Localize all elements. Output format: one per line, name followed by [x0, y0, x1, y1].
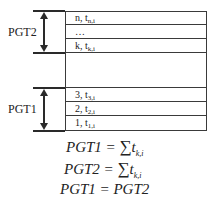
row-text: n, t [75, 12, 88, 23]
row-subscript: k,i [88, 45, 95, 53]
formula-pgt1: PGT1 = ∑tk,i [66, 137, 144, 158]
row-subscript: 1,i [88, 122, 95, 130]
sum-icon: ∑ [117, 159, 129, 178]
pgt2-arrow-up-icon [40, 12, 48, 19]
formula-subscript: k,i [136, 149, 144, 158]
row-text: 2, t [75, 103, 88, 114]
row-text: 1, t [75, 117, 88, 128]
stack-row-ellipsis: … [65, 25, 207, 39]
formula-subscript: k,i [134, 171, 142, 180]
stack-row-n: n, tn,i [65, 11, 207, 25]
row-subscript: n,i [88, 17, 95, 25]
pgt2-bottom-line [33, 52, 65, 54]
stack-row-3: 3, t3,i [65, 88, 207, 102]
stack-row-gap [65, 53, 207, 88]
row-subscript: 2,i [88, 108, 95, 116]
pgt1-top-line [33, 87, 65, 89]
row-subscript: 3,i [88, 94, 95, 102]
formula-pgt2: PGT2 = ∑tk,i [64, 159, 142, 180]
formula-lhs: PGT1 = [66, 139, 119, 155]
row-text: k, t [75, 40, 88, 51]
row-text: 3, t [75, 89, 88, 100]
pgt1-arrow-down-icon [40, 123, 48, 130]
formula-lhs: PGT2 = [64, 161, 117, 177]
row-text: … [75, 26, 85, 37]
stack-row-1: 1, t1,i [65, 116, 207, 131]
pgt1-bottom-line [33, 130, 65, 132]
pgt2-top-line [33, 10, 65, 12]
stack-row-2: 2, t2,i [65, 102, 207, 116]
pgt1-arrow-up-icon [40, 89, 48, 96]
sum-icon: ∑ [119, 137, 131, 156]
pgt2-label: PGT2 [8, 25, 37, 40]
stack-row-k: k, tk,i [65, 39, 207, 53]
pgt1-label: PGT1 [8, 102, 37, 117]
pgt2-arrow-down-icon [40, 45, 48, 52]
formula-equality: PGT1 = PGT2 [60, 181, 149, 198]
